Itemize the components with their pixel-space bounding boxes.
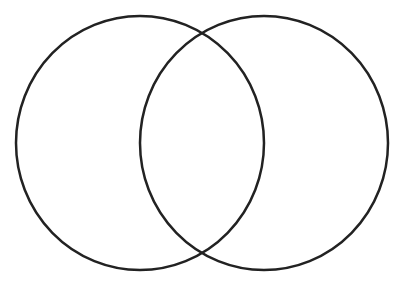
venn-diagram-svg — [0, 0, 408, 284]
venn-diagram — [0, 0, 408, 284]
